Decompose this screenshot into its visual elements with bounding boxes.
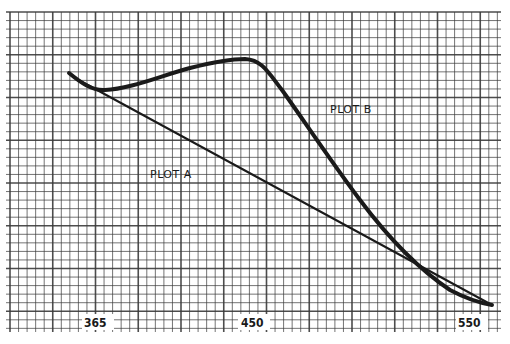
paper-background xyxy=(0,0,510,344)
x-tick-450: 450 xyxy=(241,316,264,330)
plot-b-label: PLOT B xyxy=(330,103,372,116)
chart: PLOT A PLOT B 365 450 550 xyxy=(0,0,510,344)
plot-a-label: PLOT A xyxy=(150,168,192,181)
x-tick-365: 365 xyxy=(84,316,107,330)
x-tick-550: 550 xyxy=(458,316,481,330)
